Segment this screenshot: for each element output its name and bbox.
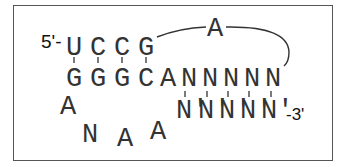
bridge-nucleotide: A (207, 14, 224, 44)
bottom-nucleotide-7: N (202, 64, 218, 94)
loop-nucleotide-1: A (60, 92, 77, 122)
loop-nucleotide-3: A (117, 124, 134, 154)
three-prime-label: -3' (286, 105, 304, 124)
bottom-nucleotide-1: G (66, 64, 82, 94)
loop-nucleotide-4: A (150, 117, 167, 147)
bottom-nucleotide-8: N (223, 64, 239, 94)
rna-structure-diagram: 5'- U C C G A G G G C A N N N N N N' N' … (0, 0, 347, 167)
bottom-nucleotide-5: A (160, 64, 177, 94)
bottom-nucleotide-9: N (244, 64, 260, 94)
connector-arc-right (226, 27, 289, 66)
bottom-nucleotide-2: G (90, 64, 106, 94)
bottom-nucleotide-6: N (181, 64, 197, 94)
bottom-nucleotide-10: N (265, 64, 281, 94)
connector-arc-left (157, 27, 206, 37)
bottom-nucleotide-4: C (138, 64, 154, 94)
loop-nucleotide-2: N (82, 120, 98, 150)
five-prime-label: 5'- (41, 31, 62, 52)
bottom-nucleotide-3: G (114, 64, 130, 94)
